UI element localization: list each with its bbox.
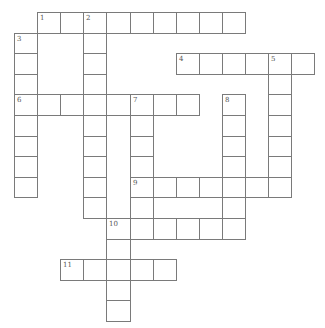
cell-letter-input[interactable]	[269, 75, 291, 94]
cell-letter-input[interactable]	[107, 95, 130, 115]
cell-letter-input[interactable]	[131, 198, 153, 218]
cell-letter-input[interactable]	[84, 137, 106, 156]
crossword-cell[interactable]: 2	[83, 12, 107, 34]
crossword-cell[interactable]	[130, 218, 154, 240]
cell-letter-input[interactable]	[131, 116, 153, 136]
cell-letter-input[interactable]	[15, 116, 37, 136]
crossword-cell[interactable]	[153, 94, 177, 116]
cell-letter-input[interactable]	[107, 260, 130, 280]
crossword-cell[interactable]	[83, 74, 107, 95]
crossword-cell[interactable]	[83, 177, 107, 198]
crossword-cell[interactable]: 5	[268, 53, 292, 75]
cell-letter-input[interactable]	[131, 95, 153, 115]
crossword-cell[interactable]	[130, 12, 154, 34]
cell-letter-input[interactable]	[269, 95, 291, 115]
crossword-cell[interactable]	[199, 53, 223, 75]
crossword-cell[interactable]	[199, 177, 223, 198]
cell-letter-input[interactable]	[223, 137, 245, 156]
cell-letter-input[interactable]	[107, 301, 130, 321]
crossword-cell[interactable]	[268, 136, 292, 157]
crossword-cell[interactable]	[222, 136, 246, 157]
crossword-cell[interactable]	[14, 156, 38, 178]
cell-letter-input[interactable]	[84, 157, 106, 177]
cell-letter-input[interactable]	[177, 95, 199, 115]
cell-letter-input[interactable]	[269, 54, 291, 74]
cell-letter-input[interactable]	[84, 13, 106, 33]
crossword-cell[interactable]	[222, 218, 246, 240]
crossword-cell[interactable]	[268, 177, 292, 198]
crossword-cell[interactable]: 10	[106, 218, 131, 240]
cell-letter-input[interactable]	[84, 178, 106, 197]
crossword-cell[interactable]	[83, 94, 107, 116]
cell-letter-input[interactable]	[131, 260, 153, 280]
cell-letter-input[interactable]	[107, 281, 130, 300]
cell-letter-input[interactable]	[223, 54, 245, 74]
crossword-cell[interactable]	[106, 259, 131, 281]
crossword-cell[interactable]	[106, 94, 131, 116]
cell-letter-input[interactable]	[131, 137, 153, 156]
crossword-cell[interactable]	[14, 53, 38, 75]
cell-letter-input[interactable]	[154, 13, 176, 33]
crossword-cell[interactable]: 7	[130, 94, 154, 116]
cell-letter-input[interactable]	[154, 219, 176, 239]
crossword-cell[interactable]	[176, 12, 200, 34]
crossword-cell[interactable]	[268, 94, 292, 116]
cell-letter-input[interactable]	[84, 54, 106, 74]
cell-letter-input[interactable]	[177, 219, 199, 239]
crossword-cell[interactable]: 11	[60, 259, 84, 281]
cell-letter-input[interactable]	[131, 13, 153, 33]
crossword-cell[interactable]	[106, 280, 131, 301]
cell-letter-input[interactable]	[15, 54, 37, 74]
cell-letter-input[interactable]	[84, 198, 106, 218]
crossword-cell[interactable]	[268, 115, 292, 137]
crossword-cell[interactable]	[153, 12, 177, 34]
cell-letter-input[interactable]	[15, 95, 37, 115]
crossword-cell[interactable]	[83, 115, 107, 137]
crossword-cell[interactable]	[130, 197, 154, 219]
cell-letter-input[interactable]	[84, 34, 106, 53]
cell-letter-input[interactable]	[131, 219, 153, 239]
cell-letter-input[interactable]	[61, 260, 83, 280]
crossword-cell[interactable]	[222, 115, 246, 137]
crossword-cell[interactable]: 3	[14, 33, 38, 54]
cell-letter-input[interactable]	[84, 95, 106, 115]
crossword-cell[interactable]: 6	[14, 94, 38, 116]
crossword-cell[interactable]	[222, 53, 246, 75]
crossword-cell[interactable]	[14, 177, 38, 198]
crossword-cell[interactable]	[60, 94, 84, 116]
crossword-cell[interactable]	[176, 94, 200, 116]
cell-letter-input[interactable]	[223, 178, 245, 197]
crossword-cell[interactable]	[130, 136, 154, 157]
crossword-cell[interactable]	[199, 218, 223, 240]
cell-letter-input[interactable]	[15, 34, 37, 53]
cell-letter-input[interactable]	[61, 95, 83, 115]
cell-letter-input[interactable]	[292, 54, 314, 74]
cell-letter-input[interactable]	[200, 178, 222, 197]
crossword-cell[interactable]: 9	[130, 177, 154, 198]
cell-letter-input[interactable]	[38, 95, 60, 115]
cell-letter-input[interactable]	[223, 95, 245, 115]
crossword-cell[interactable]	[153, 177, 177, 198]
crossword-cell[interactable]	[245, 53, 269, 75]
cell-letter-input[interactable]	[154, 260, 176, 280]
crossword-cell[interactable]: 4	[176, 53, 200, 75]
crossword-cell[interactable]	[199, 12, 223, 34]
crossword-cell[interactable]	[83, 33, 107, 54]
crossword-cell[interactable]	[106, 300, 131, 322]
crossword-cell[interactable]	[176, 177, 200, 198]
cell-letter-input[interactable]	[177, 178, 199, 197]
cell-letter-input[interactable]	[131, 157, 153, 177]
cell-letter-input[interactable]	[15, 75, 37, 94]
cell-letter-input[interactable]	[200, 219, 222, 239]
crossword-cell[interactable]	[222, 177, 246, 198]
cell-letter-input[interactable]	[223, 157, 245, 177]
cell-letter-input[interactable]	[15, 178, 37, 197]
cell-letter-input[interactable]	[223, 198, 245, 218]
cell-letter-input[interactable]	[246, 178, 268, 197]
crossword-cell[interactable]	[14, 136, 38, 157]
crossword-cell[interactable]	[106, 12, 131, 34]
crossword-cell[interactable]	[222, 12, 246, 34]
crossword-cell[interactable]	[60, 12, 84, 34]
cell-letter-input[interactable]	[200, 54, 222, 74]
cell-letter-input[interactable]	[154, 178, 176, 197]
